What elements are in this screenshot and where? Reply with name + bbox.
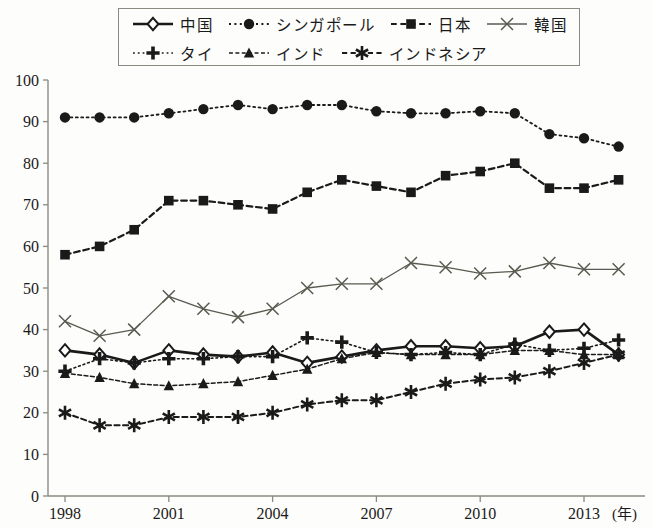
series-marker xyxy=(233,100,243,110)
y-tick-label: 20 xyxy=(23,404,39,421)
series-marker xyxy=(129,225,139,235)
series-marker xyxy=(301,331,314,344)
series-marker xyxy=(579,133,589,143)
series-marker xyxy=(95,242,105,252)
y-tick-label: 60 xyxy=(23,238,39,255)
series-marker xyxy=(267,104,277,114)
series-marker xyxy=(199,196,209,206)
series-marker xyxy=(543,364,555,378)
series-marker xyxy=(232,311,244,323)
series-marker xyxy=(128,324,140,336)
series-marker xyxy=(128,356,141,369)
series-marker xyxy=(545,183,555,193)
series-marker xyxy=(510,108,520,118)
series-marker xyxy=(197,303,209,315)
series-marker xyxy=(164,196,174,206)
series-3 xyxy=(60,158,623,259)
series-marker xyxy=(612,333,625,346)
series-marker xyxy=(59,406,71,420)
series-marker xyxy=(268,204,278,214)
series-marker xyxy=(372,181,382,191)
y-tick-label: 30 xyxy=(23,363,39,380)
y-tick-label: 10 xyxy=(23,446,39,463)
series-marker xyxy=(164,108,174,118)
series-marker xyxy=(543,257,555,269)
series-marker xyxy=(441,171,451,181)
series-marker xyxy=(162,352,175,365)
x-tick-label: 2013 xyxy=(568,505,600,522)
series-marker xyxy=(129,112,139,122)
series-marker xyxy=(60,344,71,356)
series-marker xyxy=(94,330,106,342)
series-marker xyxy=(337,100,347,110)
series-marker xyxy=(475,167,485,177)
series-marker xyxy=(302,100,312,110)
series-marker xyxy=(94,418,106,432)
x-tick-label: 2001 xyxy=(153,505,185,522)
series-marker xyxy=(406,188,416,198)
series-marker xyxy=(335,335,348,348)
series-marker xyxy=(475,106,485,116)
series-marker xyxy=(544,129,554,139)
series-marker xyxy=(371,106,381,116)
y-tick-label: 100 xyxy=(15,72,39,89)
y-tick-label: 90 xyxy=(23,113,39,130)
series-marker xyxy=(579,183,589,193)
y-tick-label: 70 xyxy=(23,196,39,213)
x-tick-label: 2010 xyxy=(464,505,496,522)
series-marker xyxy=(337,175,347,185)
x-axis-unit-label: (年) xyxy=(612,506,637,523)
series-4 xyxy=(59,257,625,342)
series-marker xyxy=(60,250,70,260)
series-marker xyxy=(302,188,312,198)
series-marker xyxy=(613,141,623,151)
chart-figure: 中国シンガポール日本韓国タイインドインドネシア 0102030405060708… xyxy=(0,0,653,528)
series-marker xyxy=(198,104,208,114)
line-chart-plot: 0102030405060708090100199820012004200720… xyxy=(0,0,653,528)
series-line xyxy=(65,105,619,147)
series-marker xyxy=(163,290,175,302)
series-marker xyxy=(614,175,624,185)
series-marker xyxy=(579,323,590,335)
series-marker xyxy=(94,372,104,382)
y-tick-label: 80 xyxy=(23,155,39,172)
x-tick-label: 1998 xyxy=(49,505,81,522)
series-marker xyxy=(440,108,450,118)
x-tick-label: 2004 xyxy=(257,505,289,522)
chart-axes: 0102030405060708090100199820012004200720… xyxy=(15,72,645,524)
y-tick-label: 50 xyxy=(23,280,39,297)
chart-series-group xyxy=(58,100,625,433)
series-2 xyxy=(60,100,624,152)
series-marker xyxy=(510,158,520,168)
y-tick-label: 40 xyxy=(23,321,39,338)
series-marker xyxy=(94,112,104,122)
x-tick-label: 2007 xyxy=(360,505,392,522)
series-marker xyxy=(544,325,555,337)
series-line xyxy=(65,263,619,336)
series-marker xyxy=(267,303,279,315)
series-line xyxy=(65,355,619,426)
series-marker xyxy=(59,315,71,327)
series-marker xyxy=(233,200,243,210)
series-marker xyxy=(128,418,140,432)
series-marker xyxy=(60,112,70,122)
y-tick-label: 0 xyxy=(31,488,39,505)
series-marker xyxy=(406,108,416,118)
series-marker xyxy=(231,350,244,363)
